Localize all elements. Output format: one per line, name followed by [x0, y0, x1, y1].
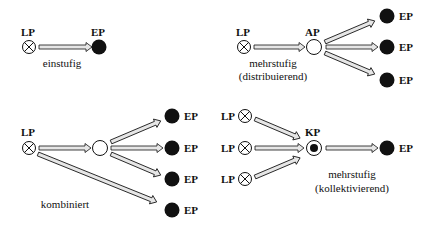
caption: einstufig [43, 57, 82, 69]
ep-icon [165, 109, 180, 124]
arrow [39, 43, 92, 52]
arrow [109, 117, 162, 146]
ap-icon [93, 141, 108, 156]
ep-label: EP [184, 142, 198, 154]
ep-label: EP [184, 204, 198, 216]
lp-label: LP [21, 26, 35, 38]
ep-label: EP [184, 173, 198, 185]
lp-icon [239, 142, 252, 155]
ep-icon [165, 172, 180, 187]
ep-icon [92, 40, 107, 55]
caption-line-1: mehrstufig [328, 168, 376, 180]
ep-label: EP [91, 26, 105, 38]
lp-label: LP [221, 142, 235, 154]
lp-icon [238, 41, 251, 54]
ap-icon [307, 40, 322, 55]
caption-line-2: (kollektivierend) [315, 182, 389, 195]
panel-distribuierend: LP AP EP EP EP mehrstufig (distribuieren… [236, 9, 413, 88]
lp-icon [23, 41, 36, 54]
arrow [255, 144, 304, 153]
kp-icon [307, 141, 322, 156]
arrow [109, 150, 162, 179]
ep-icon [165, 203, 180, 218]
ep-label: EP [184, 110, 198, 122]
lp-icon [23, 142, 36, 155]
ep-label: EP [399, 142, 413, 154]
ep-label: EP [399, 10, 413, 22]
ep-label: EP [399, 41, 413, 53]
ep-icon [380, 9, 395, 24]
arrow [111, 144, 163, 153]
lp-label: LP [221, 110, 235, 122]
ep-icon [380, 141, 395, 156]
lp-label: LP [21, 126, 35, 138]
ap-label: AP [305, 26, 320, 38]
lp-icon [239, 173, 252, 186]
panel-kombiniert: LP EP EP EP EP kombiniert [21, 109, 198, 218]
kp-label: KP [305, 126, 321, 138]
arrow [323, 49, 376, 78]
arrow [326, 144, 378, 153]
lp-label: LP [221, 173, 235, 185]
ep-icon [380, 40, 395, 55]
ep-icon [380, 73, 395, 88]
arrow [39, 144, 91, 153]
panel-kollektivierend: LP LP LP KP EP mehrstufig (kollektiviere… [221, 110, 413, 196]
caption: kombiniert [41, 198, 89, 210]
arrow [323, 17, 376, 46]
arrow [254, 43, 305, 52]
ep-label: EP [399, 74, 413, 86]
ep-icon [165, 141, 180, 156]
distribution-structure-diagram: LP EP einstufig LP AP EP EP EP [0, 0, 433, 230]
lp-label: LP [236, 26, 250, 38]
caption-line-1: mehrstufig [249, 57, 297, 69]
arrow [326, 43, 378, 52]
arrow [253, 154, 302, 181]
panel-einstufig: LP EP einstufig [21, 26, 107, 69]
arrow [253, 115, 302, 142]
caption-line-2: (distribuierend) [239, 70, 308, 83]
lp-icon [239, 110, 252, 123]
